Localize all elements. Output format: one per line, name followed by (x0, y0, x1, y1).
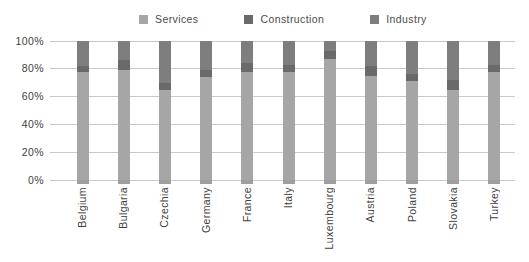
bar-segment-services (283, 72, 295, 180)
bar-segment-construction (324, 51, 336, 59)
bar-segment-construction (406, 74, 418, 81)
bar-segment-industry (324, 41, 336, 51)
bar-segment-services (118, 70, 130, 180)
x-axis-label-belgium: Belgium (76, 187, 89, 228)
bar-segment-industry (77, 41, 89, 66)
bar-segment-construction (283, 65, 295, 72)
legend-item-construction: Construction (244, 13, 324, 25)
x-axis-label-czechia: Czechia (158, 187, 171, 228)
x-axis-label-italy: Italy (282, 187, 295, 208)
bar-segment-services (159, 90, 171, 180)
y-axis-tick-label: 0% (0, 174, 44, 187)
x-axis-tick (447, 180, 459, 184)
bar-belgium (77, 41, 89, 180)
bar-segment-industry (200, 41, 212, 70)
x-axis-label-france: France (241, 187, 254, 222)
bar-segment-services (488, 72, 500, 180)
y-axis-tick-label: 100% (0, 35, 44, 48)
bar-slovakia (447, 41, 459, 180)
x-axis-tick (241, 180, 253, 184)
bar-segment-construction (200, 70, 212, 77)
x-axis-label-bulgaria: Bulgaria (117, 187, 130, 229)
bar-segment-services (200, 77, 212, 180)
x-axis-label-germany: Germany (200, 187, 213, 233)
legend-item-services: Services (139, 13, 198, 25)
bar-segment-services (447, 90, 459, 180)
y-axis-tick-label: 60% (0, 90, 44, 103)
bar-turkey (488, 41, 500, 180)
x-axis-label-slovakia: Slovakia (447, 187, 460, 230)
x-axis-tick (365, 180, 377, 184)
bar-italy (283, 41, 295, 180)
bar-segment-services (77, 72, 89, 180)
bar-germany (200, 41, 212, 180)
x-axis-tick (77, 180, 89, 184)
bar-segment-industry (118, 41, 130, 60)
bar-austria (365, 41, 377, 180)
x-axis-label-austria: Austria (364, 187, 377, 222)
y-axis-tick-label: 20% (0, 146, 44, 159)
bar-luxembourg (324, 41, 336, 180)
bar-segment-construction (488, 65, 500, 72)
bar-poland (406, 41, 418, 180)
chart-legend: ServicesConstructionIndustry (139, 13, 427, 25)
bar-segment-industry (241, 41, 253, 63)
x-axis-tick (159, 180, 171, 184)
bar-segment-services (324, 59, 336, 180)
legend-swatch-icon (244, 15, 253, 24)
stacked-bar-chart: ServicesConstructionIndustry 0%20%40%60%… (0, 0, 529, 262)
bar-segment-services (406, 81, 418, 180)
bar-segment-construction (241, 63, 253, 71)
bar-segment-industry (406, 41, 418, 74)
bar-segment-industry (283, 41, 295, 65)
x-axis-tick (118, 180, 130, 184)
x-axis-label-turkey: Turkey (488, 187, 501, 221)
bar-segment-construction (447, 80, 459, 90)
x-axis-label-luxembourg: Luxembourg (323, 187, 336, 249)
x-axis-tick (324, 180, 336, 184)
x-axis-tick (200, 180, 212, 184)
bar-segment-industry (447, 41, 459, 80)
bar-segment-construction (118, 60, 130, 70)
legend-label: Construction (260, 13, 324, 25)
x-axis-label-poland: Poland (406, 187, 419, 222)
legend-label: Services (155, 13, 198, 25)
legend-label: Industry (386, 13, 427, 25)
bar-bulgaria (118, 41, 130, 180)
bar-segment-industry (488, 41, 500, 65)
legend-swatch-icon (139, 15, 148, 24)
bar-segment-construction (365, 66, 377, 76)
bar-segment-construction (159, 83, 171, 90)
legend-item-industry: Industry (370, 13, 427, 25)
bar-czechia (159, 41, 171, 180)
x-axis-tick (406, 180, 418, 184)
legend-swatch-icon (370, 15, 379, 24)
x-axis-tick (283, 180, 295, 184)
bar-segment-industry (159, 41, 171, 83)
bar-segment-services (365, 76, 377, 180)
bar-france (241, 41, 253, 180)
x-axis-tick (488, 180, 500, 184)
y-axis-tick-label: 80% (0, 62, 44, 75)
bar-segment-services (241, 72, 253, 180)
bar-segment-industry (365, 41, 377, 66)
y-axis-tick-label: 40% (0, 118, 44, 131)
